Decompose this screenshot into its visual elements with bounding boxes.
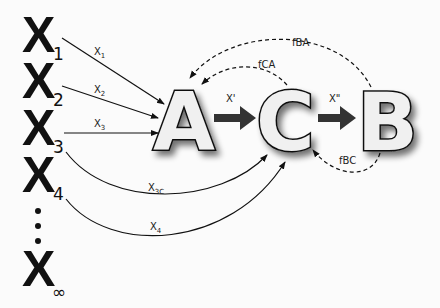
svg-text:∞: ∞	[52, 282, 66, 302]
svg-text:X: X	[22, 147, 55, 203]
ellipsis-dots	[35, 208, 41, 244]
edge-a-to-c: X'	[214, 93, 256, 130]
input-x-infinity: X ∞	[22, 241, 66, 302]
node-c: C	[256, 76, 315, 169]
svg-text:X': X'	[226, 93, 236, 104]
diagram-canvas: X 1 X 2 X 3 X 4 X ∞ X1 X2 X3 X3C X4	[0, 0, 440, 308]
svg-text:fBA: fBA	[292, 37, 309, 48]
node-a: A	[153, 76, 215, 169]
flux-x3-to-a: X3	[64, 118, 158, 133]
edge-c-to-b: X"	[318, 93, 356, 130]
svg-text:X: X	[22, 241, 55, 297]
node-b: B	[357, 76, 418, 169]
svg-text:X": X"	[329, 93, 340, 104]
svg-text:4: 4	[53, 184, 64, 204]
flux-x4-to-c: X4	[66, 162, 285, 236]
svg-text:X4: X4	[150, 221, 162, 235]
svg-text:fBC: fBC	[339, 155, 356, 166]
flux-x2-to-a: X2	[62, 84, 158, 118]
svg-text:fCA: fCA	[258, 59, 276, 70]
svg-text:X3: X3	[94, 118, 105, 132]
svg-text:X2: X2	[94, 84, 105, 98]
svg-text:X1: X1	[94, 46, 105, 60]
flux-x1-to-a: X1	[62, 38, 164, 104]
